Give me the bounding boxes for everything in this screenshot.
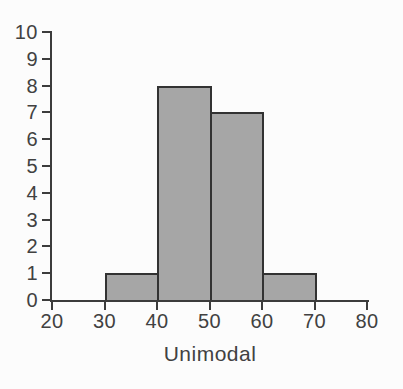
y-tick-label: 5 — [12, 154, 38, 178]
y-tick — [42, 58, 52, 60]
y-tick — [42, 138, 52, 140]
y-tick — [42, 31, 52, 33]
histogram-bar — [262, 273, 317, 302]
y-tick — [42, 219, 52, 221]
histogram-bar — [105, 273, 160, 302]
x-axis-title: Unimodal — [110, 341, 310, 367]
histogram-bar — [157, 86, 212, 302]
x-tick-label: 40 — [135, 309, 179, 333]
x-tick-label: 70 — [293, 309, 337, 333]
y-tick — [42, 111, 52, 113]
y-tick-label: 3 — [12, 208, 38, 232]
y-tick-label: 9 — [12, 47, 38, 71]
y-tick-label: 8 — [12, 74, 38, 98]
y-tick-label: 7 — [12, 100, 38, 124]
y-tick-label: 1 — [12, 261, 38, 285]
y-tick — [42, 85, 52, 87]
x-tick-label: 50 — [188, 309, 232, 333]
x-tick-label: 80 — [345, 309, 389, 333]
y-tick — [42, 272, 52, 274]
y-tick-label: 10 — [12, 20, 38, 44]
y-tick-label: 2 — [12, 234, 38, 258]
y-tick — [42, 245, 52, 247]
histogram-bar — [210, 112, 265, 302]
plot-area: 01234567891020304050607080 — [0, 0, 403, 389]
x-tick-label: 30 — [83, 309, 127, 333]
x-tick-label: 60 — [240, 309, 284, 333]
x-tick-label: 20 — [30, 309, 74, 333]
histogram-figure: 01234567891020304050607080 Unimodal — [0, 0, 403, 389]
y-tick — [42, 165, 52, 167]
y-tick-label: 4 — [12, 181, 38, 205]
y-tick-label: 6 — [12, 127, 38, 151]
y-tick — [42, 192, 52, 194]
